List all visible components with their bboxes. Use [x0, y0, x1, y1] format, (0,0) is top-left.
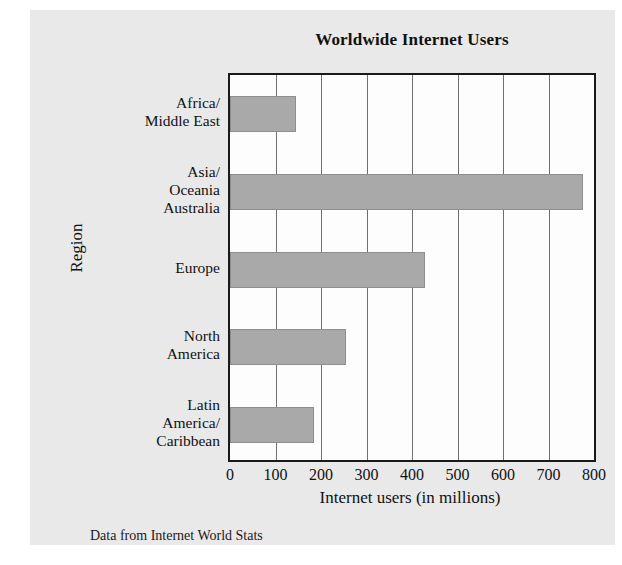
y-axis-tick-label-line: Africa/ [88, 94, 220, 112]
bar [230, 329, 346, 365]
y-axis-tick-label: LatinAmerica/Caribbean [88, 396, 228, 450]
y-axis-tick-label-line: Australia [88, 199, 220, 217]
y-axis-tick-label-line: Asia/ [88, 163, 220, 181]
y-axis-tick-label-line: Caribbean [88, 432, 220, 450]
x-axis-tick-label: 400 [400, 466, 424, 484]
y-axis-tick-label: Africa/Middle East [88, 94, 228, 130]
y-axis-tick-label: Asia/OceaniaAustralia [88, 163, 228, 217]
x-axis-tick-labels: 0100200300400500600700800 [228, 466, 596, 488]
x-axis-tick-label: 100 [264, 466, 288, 484]
bar [230, 174, 583, 210]
x-axis-tick-label: 0 [226, 466, 234, 484]
x-axis-title: Internet users (in millions) [190, 488, 622, 508]
y-axis-tick-label-line: North [88, 327, 220, 345]
x-axis-tick-label: 800 [582, 466, 606, 484]
plot-area [228, 73, 596, 462]
x-axis-tick-label: 200 [309, 466, 333, 484]
x-axis-tick-label: 700 [537, 466, 561, 484]
bars-layer [230, 75, 594, 460]
y-axis-tick-label: Europe [88, 259, 228, 277]
x-axis-tick-label: 300 [355, 466, 379, 484]
y-axis-tick-label: NorthAmerica [88, 327, 228, 363]
y-axis-tick-label-line: Europe [88, 259, 220, 277]
bar [230, 252, 425, 288]
bar [230, 407, 314, 443]
x-axis-tick-label: 600 [491, 466, 515, 484]
chart-title: Worldwide Internet Users [228, 30, 596, 50]
y-axis-tick-label-line: Middle East [88, 112, 220, 130]
y-axis-tick-labels: Africa/Middle EastAsia/OceaniaAustraliaE… [78, 73, 228, 462]
y-axis-tick-label-line: America [88, 345, 220, 363]
bar [230, 96, 296, 132]
y-axis-tick-label-line: Latin [88, 396, 220, 414]
x-axis-tick-label: 500 [446, 466, 470, 484]
y-axis-tick-label-line: Oceania [88, 181, 220, 199]
y-axis-tick-label-line: America/ [88, 414, 220, 432]
figure-panel: Worldwide Internet Users Region Africa/M… [30, 10, 615, 545]
source-note: Data from Internet World Stats [90, 528, 263, 544]
